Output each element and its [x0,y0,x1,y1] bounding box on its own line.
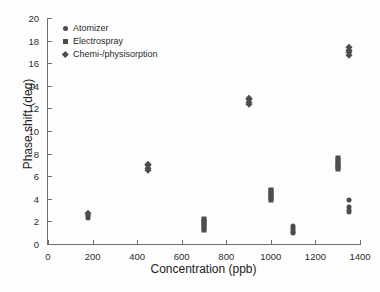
y-axis-label: Phase shift (deg) [21,44,35,204]
x-axis-tick-label: 600 [174,251,190,262]
y-axis-tick [47,154,52,155]
legend-item-atomizer: Atomizer [57,22,158,35]
y-axis-tick [47,86,52,87]
data-point-atomizer [346,197,351,202]
x-axis-tick [360,240,361,245]
square-marker-icon [57,39,73,44]
circle-marker-icon [57,26,73,31]
y-axis-tick [47,18,52,19]
y-axis-tick [47,41,52,42]
x-axis-label: Concentration (ppb) [47,262,360,276]
diamond-marker-icon [57,52,73,57]
y-axis-tick [47,63,52,64]
y-axis-tick-label: 2 [34,216,39,227]
legend-label: Electrospray [73,35,123,48]
x-axis-tick-label: 800 [218,251,234,262]
data-point-chemi-physisorption [347,45,352,50]
legend-item-electrospray: Electrospray [57,35,158,48]
x-axis-tick-label: 1200 [305,251,326,262]
x-axis-tick-label: 400 [129,251,145,262]
legend-item-chemi-physisorption: Chemi-/physisorption [57,48,158,61]
data-point-atomizer [291,223,296,228]
x-axis-tick [93,240,94,245]
x-axis-tick [137,240,138,245]
y-axis-tick [47,131,52,132]
x-axis-tick-label: 1000 [260,251,281,262]
x-axis-tick-label: 200 [85,251,101,262]
data-point-chemi-physisorption [86,211,91,216]
x-axis-tick [271,240,272,245]
data-point-chemi-physisorption [146,161,151,166]
y-axis-tick-label: 0 [34,239,39,250]
legend: Atomizer Electrospray Chemi-/physisorpti… [57,22,158,61]
data-point-electrospray [335,155,340,160]
data-point-chemi-physisorption [246,95,251,100]
x-axis-tick [226,240,227,245]
y-axis-tick [47,221,52,222]
legend-label: Chemi-/physisorption [73,48,158,61]
y-axis-tick [47,244,52,245]
y-axis-tick [47,108,52,109]
x-axis-tick-label: 0 [45,251,50,262]
y-axis-tick [47,199,52,200]
x-axis-tick [182,240,183,245]
chart-figure: 0200400600800100012001400024681012141618… [0,0,380,292]
data-point-atomizer [346,205,351,210]
legend-label: Atomizer [73,22,109,35]
y-axis-tick-label: 20 [28,13,39,24]
data-point-electrospray [202,216,207,221]
y-axis-tick [47,176,52,177]
x-axis-tick-label: 1400 [349,251,370,262]
x-axis-tick [315,240,316,245]
data-point-electrospray [268,187,273,192]
